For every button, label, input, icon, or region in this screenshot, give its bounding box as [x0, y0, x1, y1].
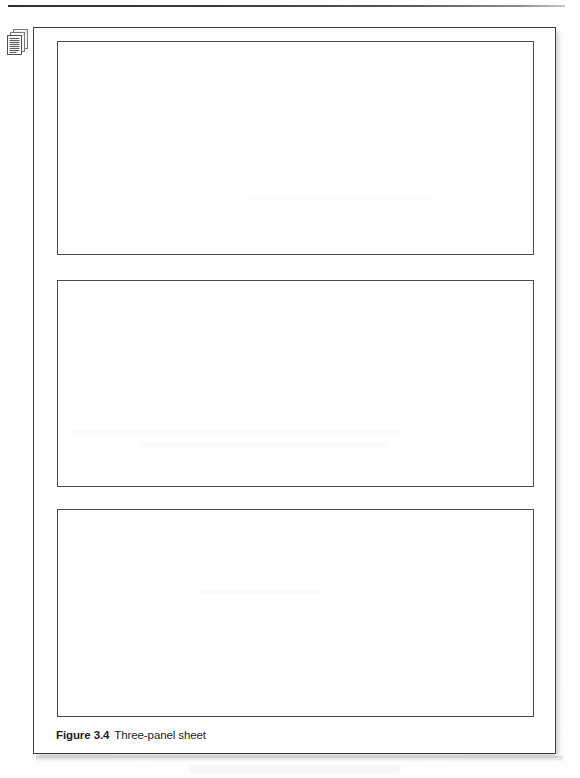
documents-icon-glyph	[5, 29, 30, 58]
figure-caption: Figure 3.4Three-panel sheet	[56, 728, 206, 742]
scan-canvas: Figure 3.4Three-panel sheet	[0, 0, 580, 778]
footer-ghost-text	[190, 765, 400, 773]
figure-caption-label: Figure 3.4	[56, 729, 109, 741]
page-sheet	[33, 27, 556, 754]
top-horizontal-rule	[8, 5, 565, 7]
panel-middle[interactable]	[57, 280, 534, 487]
panel-bottom[interactable]	[57, 509, 534, 717]
panels-area	[57, 41, 534, 717]
figure-caption-text: Three-panel sheet	[114, 729, 206, 741]
documents-icon[interactable]	[5, 29, 30, 58]
page-shadow	[36, 756, 563, 762]
panel-top[interactable]	[57, 41, 534, 255]
